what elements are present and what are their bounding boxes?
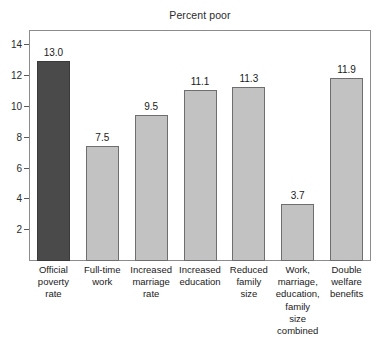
x-axis-label-line: combined	[270, 325, 325, 337]
bar-value-label: 11.3	[220, 73, 277, 85]
bar-group: 9.5	[135, 30, 168, 261]
x-axis-label-line: rate	[26, 288, 81, 300]
x-axis-label-line: work	[75, 276, 130, 288]
y-tick-label: 8	[16, 131, 22, 144]
x-axis-label: Full-timework	[75, 264, 130, 288]
x-axis-label-line: Double	[319, 264, 374, 276]
bar-chart-figure: Percent poor 2468101214 13.07.59.511.111…	[0, 0, 378, 347]
bar-value-label: 3.7	[269, 190, 326, 202]
bar	[184, 90, 217, 261]
bar-group: 11.1	[184, 30, 217, 261]
bar	[281, 204, 314, 261]
x-axis-label-line: education	[173, 276, 228, 288]
bar-value-label: 9.5	[123, 101, 180, 113]
y-tick-label: 2	[16, 223, 22, 236]
x-axis-label-line: rate	[124, 288, 179, 300]
x-axis-label-line: Reduced	[221, 264, 276, 276]
x-axis-label-line: benefits	[319, 288, 374, 300]
x-axis-label-line: size	[270, 313, 325, 325]
x-axis-label-line: education,	[270, 288, 325, 300]
x-axis-label: Increasedmarriagerate	[124, 264, 179, 301]
bar-group: 7.5	[86, 30, 119, 261]
x-axis-label: Work,marriage,education,familysizecombin…	[270, 264, 325, 337]
bar	[330, 78, 363, 261]
x-axis-label-line: marriage	[124, 276, 179, 288]
bars-layer: 13.07.59.511.111.33.711.9	[29, 30, 371, 261]
x-axis-label-line: size	[221, 288, 276, 300]
bar-value-label: 11.9	[318, 64, 375, 76]
bar-group: 3.7	[281, 30, 314, 261]
bar-group: 11.9	[330, 30, 363, 261]
y-tick-label: 6	[16, 162, 22, 175]
x-axis-label-line: poverty	[26, 276, 81, 288]
bar-group: 11.3	[232, 30, 265, 261]
bar	[135, 115, 168, 261]
bar	[37, 61, 70, 261]
bar	[86, 146, 119, 262]
x-axis-label: Officialpovertyrate	[26, 264, 81, 301]
x-axis-label-line: Official	[26, 264, 81, 276]
chart-title: Percent poor	[29, 9, 371, 22]
x-axis-label: Reducedfamilysize	[221, 264, 276, 301]
x-axis-label-line: welfare	[319, 276, 374, 288]
x-axis-label-line: marriage,	[270, 276, 325, 288]
x-axis-label: Increasededucation	[173, 264, 228, 288]
y-tick-label: 10	[11, 100, 22, 113]
y-tick-label: 12	[11, 69, 22, 82]
y-tick-label: 14	[11, 38, 22, 51]
x-axis-label-line: Full-time	[75, 264, 130, 276]
x-axis-label-line: Increased	[124, 264, 179, 276]
y-tick-label: 4	[16, 192, 22, 205]
y-axis: 2468101214	[0, 30, 29, 261]
bar-group: 13.0	[37, 30, 70, 261]
x-axis-label-line: Increased	[173, 264, 228, 276]
x-axis-label-line: family	[270, 301, 325, 313]
bar-value-label: 7.5	[74, 132, 131, 144]
bar-value-label: 13.0	[25, 47, 82, 59]
x-axis-label: Doublewelfarebenefits	[319, 264, 374, 301]
x-axis-label-line: family	[221, 276, 276, 288]
bar	[232, 87, 265, 261]
x-axis-label-line: Work,	[270, 264, 325, 276]
x-axis: OfficialpovertyrateFull-timeworkIncrease…	[29, 264, 371, 347]
